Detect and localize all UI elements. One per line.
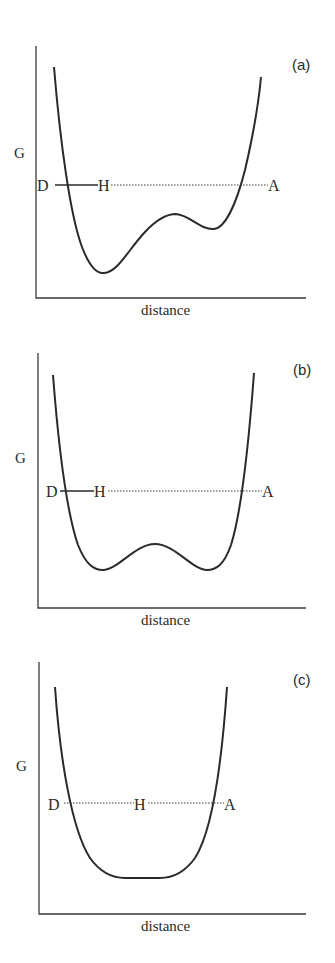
x-axis-label-c: distance — [141, 918, 190, 934]
potential-energy-diagrams: (a) G distance D H A (b) G distance D H … — [0, 0, 335, 963]
axes-b — [38, 353, 306, 608]
donor-label-b: D — [46, 483, 58, 500]
acceptor-label-c: A — [224, 796, 236, 813]
potential-curve-b — [53, 373, 254, 570]
acceptor-label-b: A — [262, 483, 274, 500]
panel-b: (b) G distance D H A — [15, 353, 311, 628]
acceptor-label-a: A — [268, 177, 280, 194]
panel-c: (c) G distance D H A — [16, 662, 311, 934]
x-axis-label-a: distance — [141, 302, 190, 318]
hydrogen-label-c: H — [134, 796, 146, 813]
hydrogen-label-b: H — [94, 483, 106, 500]
x-axis-label-b: distance — [141, 612, 190, 628]
panel-label-a: (a) — [292, 56, 310, 73]
panel-a: (a) G distance D H A — [14, 46, 310, 318]
panel-label-c: (c) — [293, 671, 311, 688]
panel-label-b: (b) — [293, 361, 311, 378]
donor-label-a: D — [37, 177, 49, 194]
potential-curve-a — [54, 67, 261, 273]
axes-a — [36, 46, 306, 298]
y-axis-label-c: G — [16, 758, 27, 774]
y-axis-label-b: G — [15, 450, 26, 466]
donor-label-c: D — [48, 796, 60, 813]
potential-curve-c — [55, 687, 227, 878]
y-axis-label-a: G — [14, 145, 25, 161]
hydrogen-label-a: H — [98, 177, 110, 194]
